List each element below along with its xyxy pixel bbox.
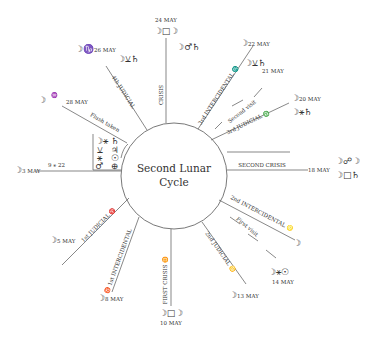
aspect-10-may: ☽□☽ — [159, 308, 184, 318]
label-second-crisis: SECOND CRISIS — [238, 162, 286, 168]
date-20-may: ☽20 MAY — [291, 93, 321, 103]
label-first-visit: First visit — [235, 216, 260, 238]
label-4th-judicial: 4th JUDICIAL — [110, 74, 137, 110]
label-3rd-judicial: 3rd JUDICIAL ♎ — [225, 109, 271, 136]
date-28-may: 28 MAY — [66, 99, 88, 105]
date-14-may: 14 MAY — [272, 279, 294, 285]
date-8-may: ☽8 MAY — [97, 293, 124, 303]
date-5-may: ☽5 MAY — [49, 235, 76, 245]
moon-2nd-intercidental: ☽ — [293, 238, 301, 248]
aspect-22-may: ☽⚺♄ — [244, 58, 266, 68]
lunar-cycle-diagram: Second Lunar Cycle — [0, 0, 368, 341]
title-line1: Second Lunar — [137, 162, 212, 174]
aspect-18-may-extra: ☽□♄ — [335, 170, 360, 180]
aspect-24-may: ☽□☽ — [154, 26, 179, 36]
date-21-may: 21 MAY — [262, 68, 284, 74]
label-2nd-intercidental: 2nd INTERCIDENTAL ♌ — [229, 194, 295, 233]
date-24-may: 24 MAY — [155, 17, 177, 23]
label-1st-intercidental: ♉ 1st INTERCIDENTAL — [104, 228, 134, 295]
aspect-20-may: ☽⚹♄ — [291, 107, 312, 117]
moon-28-may: ☽ — [38, 95, 46, 105]
aspect-24-may-extra: ☽♂♄ — [176, 42, 200, 52]
title-line2: Cycle — [159, 176, 188, 188]
date-13-may: ☽13 MAY — [229, 290, 259, 300]
date-18-may: 18 MAY — [308, 167, 330, 173]
date-10-may: 10 MAY — [160, 320, 182, 326]
label-1st-judicial: 1st JUDICIAL ♈ — [80, 206, 118, 244]
svg-text:⊕: ⊕ — [111, 161, 119, 171]
label-2nd-judicial: 2nd JUDICIAL ♋ — [203, 230, 237, 274]
aspect-18-may: ☽☍☽ — [335, 156, 360, 166]
aspect-26-may: ☽⚺♄ — [117, 54, 139, 64]
label-flush-taken: Flush taken — [89, 111, 121, 133]
date-26-may: ☽♑26 MAY — [75, 43, 116, 54]
label-crisis: CRISIS — [158, 85, 164, 105]
aspect-14-may: ☽⚹☉ — [268, 267, 289, 277]
svg-text:♂: ♂ — [95, 161, 103, 171]
date-22-may: ☽22 MAY — [240, 38, 270, 48]
date-3-may: ☽3 MAY — [14, 165, 41, 175]
degree-9-22: 9 ⚹ 22 — [48, 162, 65, 168]
label-first-crisis: FIRST CRISIS ♊ — [162, 256, 169, 304]
aspect-box-content: ☽⚹♄ ⚺♃ ⚹☉ ♂⊕ — [95, 136, 119, 171]
sign-aquarius: ♒ — [51, 92, 58, 99]
